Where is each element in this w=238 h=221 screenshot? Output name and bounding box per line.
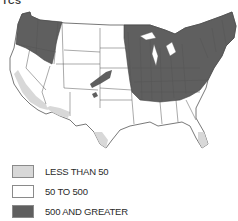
legend-item-mid: 50 TO 500 (12, 181, 128, 201)
legend-label-low: LESS THAN 50 (45, 166, 108, 177)
caption-fragment: TCS (2, 0, 22, 6)
legend-swatch-low (12, 165, 34, 178)
legend-item-low: LESS THAN 50 (12, 161, 128, 181)
legend-item-high: 500 AND GREATER (12, 201, 128, 221)
legend-swatch-mid (12, 185, 34, 198)
legend-label-high: 500 AND GREATER (45, 206, 128, 217)
legend-label-mid: 50 TO 500 (45, 186, 88, 197)
region-low-florida (198, 132, 208, 148)
map-legend: LESS THAN 50 50 TO 500 500 AND GREATER (12, 161, 128, 221)
us-choropleth-map (0, 8, 238, 158)
legend-swatch-high (12, 205, 34, 218)
